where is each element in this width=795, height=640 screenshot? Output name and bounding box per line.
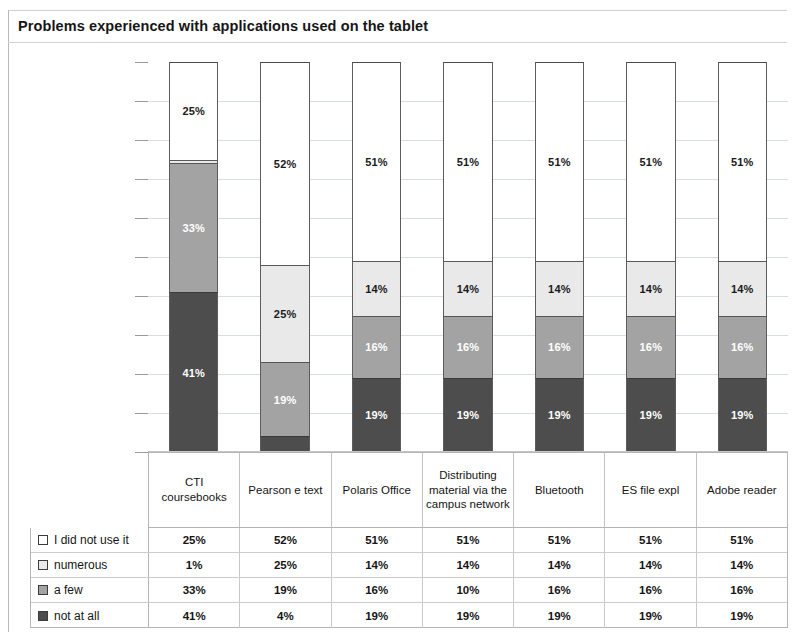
bar-segment: 16% [443, 316, 492, 378]
bar-column: 19%16%14%51% [443, 62, 492, 452]
bar-segment: 14% [535, 261, 584, 316]
legend-swatch-icon [38, 535, 48, 545]
legend-cell: not at all [31, 603, 149, 628]
table-row: numerous1%25%14%14%14%14%14% [31, 553, 787, 578]
axis-tick [135, 413, 148, 414]
legend-label: not at all [54, 609, 99, 623]
bar-segment-label: 19% [365, 409, 388, 421]
table-row: a few33%19%16%10%16%16%16% [31, 578, 787, 603]
table-value-cell: 51% [423, 528, 514, 552]
page-title: Problems experienced with applications u… [18, 18, 428, 34]
bar-segment-label: 51% [365, 156, 388, 168]
bar-segment: 16% [626, 316, 675, 378]
bar-segment: 51% [626, 62, 675, 261]
bar-segment-label: 16% [548, 341, 571, 353]
bar-segment: 4% [260, 436, 309, 452]
category-header-cell: Bluetooth [514, 453, 605, 527]
table-value-cell: 19% [332, 603, 423, 628]
table-value-cell: 33% [149, 578, 240, 602]
bar-segment-label: 16% [731, 341, 754, 353]
bar-segment-label: 51% [457, 156, 480, 168]
bar-segment-label: 14% [731, 283, 754, 295]
bar-segment: 16% [535, 316, 584, 378]
table-value-cell: 10% [423, 578, 514, 602]
axis-tick [135, 257, 148, 258]
legend-swatch-icon [38, 585, 48, 595]
bar-segment-label: 51% [640, 156, 663, 168]
bar-column: 19%16%14%51% [535, 62, 584, 452]
bar-segment: 19% [626, 378, 675, 452]
bar-segment-label: 19% [731, 409, 754, 421]
axis-tick [135, 140, 148, 141]
legend-cell: a few [31, 578, 149, 602]
bar-segment-label: 16% [457, 341, 480, 353]
bar-segment-label: 25% [274, 308, 297, 320]
table-value-cell: 16% [697, 578, 787, 602]
legend-cell: I did not use it [31, 528, 149, 552]
bar-segment-label: 51% [548, 156, 571, 168]
table-row: not at all41%4%19%19%19%19%19% [31, 603, 787, 628]
bar-segment-label: 16% [365, 341, 388, 353]
bar-segment: 19% [535, 378, 584, 452]
bar-segment: 51% [718, 62, 767, 261]
category-header-table: CTI coursebooksPearson e textPolaris Off… [148, 452, 788, 528]
table-value-cell: 19% [514, 603, 605, 628]
bar-segment: 51% [443, 62, 492, 261]
category-header-cell: ES file expl [605, 453, 696, 527]
bar-segment-label: 19% [457, 409, 480, 421]
bar-segment-label: 52% [274, 158, 297, 170]
chart-plot-area: 41%33%1%25%4%19%25%52%19%16%14%51%19%16%… [148, 62, 788, 452]
bar-segment-label: 14% [457, 283, 480, 295]
bar-segment-label: 41% [182, 367, 205, 379]
legend-label: I did not use it [54, 533, 129, 547]
table-value-cell: 14% [605, 553, 696, 577]
table-value-cell: 4% [240, 603, 331, 628]
bar-column: 41%33%1%25% [169, 62, 218, 452]
bar-segment: 19% [260, 362, 309, 436]
legend-swatch-icon [38, 611, 48, 621]
bar-segment: 41% [169, 292, 218, 452]
bar-column: 19%16%14%51% [352, 62, 401, 452]
axis-tick [135, 374, 148, 375]
bar-segment: 16% [352, 316, 401, 378]
bar-segment: 1% [169, 160, 218, 164]
table-value-cell: 51% [697, 528, 787, 552]
axis-tick [135, 62, 148, 63]
bar-segment-label: 19% [548, 409, 571, 421]
axis-tick [135, 218, 148, 219]
bar-segment: 19% [352, 378, 401, 452]
category-header-cell: Distributing material via the campus net… [423, 453, 514, 527]
bar-segment: 52% [260, 62, 309, 265]
table-value-cell: 51% [332, 528, 423, 552]
bar-column: 19%16%14%51% [626, 62, 675, 452]
bar-segment: 51% [352, 62, 401, 261]
axis-tick [135, 101, 148, 102]
table-value-cell: 52% [240, 528, 331, 552]
table-value-cell: 16% [514, 578, 605, 602]
table-value-cell: 19% [240, 578, 331, 602]
legend-cell: numerous [31, 553, 149, 577]
bar-segment: 25% [260, 265, 309, 363]
table-value-cell: 51% [605, 528, 696, 552]
title-divider [8, 42, 787, 43]
bar-segment: 19% [443, 378, 492, 452]
table-value-cell: 25% [149, 528, 240, 552]
category-header-cell: CTI coursebooks [149, 453, 240, 527]
category-header-cell: Pearson e text [240, 453, 331, 527]
table-value-cell: 25% [240, 553, 331, 577]
table-value-cell: 16% [605, 578, 696, 602]
table-value-cell: 19% [423, 603, 514, 628]
bar-segment: 14% [718, 261, 767, 316]
bar-segment-label: 14% [640, 283, 663, 295]
bar-segment: 14% [443, 261, 492, 316]
bar-segment-label: 19% [274, 394, 297, 406]
bar-segment-label: 51% [731, 156, 754, 168]
table-value-cell: 51% [514, 528, 605, 552]
bar-segment-label: 33% [182, 222, 205, 234]
axis-tick [135, 335, 148, 336]
table-value-cell: 16% [332, 578, 423, 602]
category-header-cell: Adobe reader [697, 453, 787, 527]
table-row: I did not use it25%52%51%51%51%51%51% [31, 528, 787, 553]
bar-column: 19%16%14%51% [718, 62, 767, 452]
table-value-cell: 41% [149, 603, 240, 628]
